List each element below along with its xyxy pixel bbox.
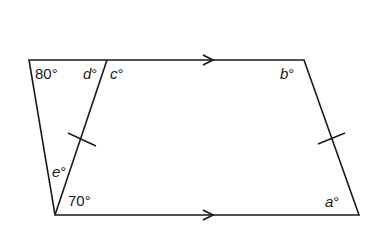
angle-label-b: b° [280, 65, 294, 82]
angle-label-c-degree: ° [118, 65, 124, 82]
angle-label-a-letter: a [325, 193, 333, 210]
angle-label-a-degree: ° [333, 193, 339, 210]
angle-label-e: e° [52, 163, 66, 180]
angle-label-e-letter: e [52, 163, 60, 180]
angle-label-d-degree: ° [91, 65, 97, 82]
angle-label-b-letter: b [280, 65, 288, 82]
angle-label-c: c° [110, 65, 124, 82]
angle-label-d: d° [83, 65, 97, 82]
trapezium-diagram: 80° d° c° b° e° 70° a° [0, 0, 377, 240]
equal-tick-right-side-icon [318, 133, 345, 144]
angle-label-80: 80° [35, 65, 58, 82]
angle-label-b-degree: ° [288, 65, 294, 82]
angle-label-a: a° [325, 193, 339, 210]
angle-label-70: 70° [68, 192, 91, 209]
angle-label-e-degree: ° [60, 163, 66, 180]
